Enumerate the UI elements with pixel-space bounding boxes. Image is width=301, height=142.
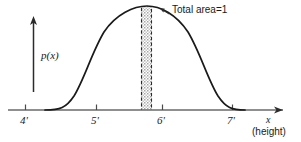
- x-tick-label-7ft: 7': [227, 115, 235, 126]
- x-tick-label-4ft: 4': [20, 115, 28, 126]
- x-tick-label-5ft: 5': [91, 115, 99, 126]
- shaded-area-strip: [141, 0, 152, 110]
- chart-canvas: [0, 0, 301, 142]
- total-area-annotation: Total area=1: [172, 5, 227, 15]
- x-tick-label-6ft: 6': [157, 115, 165, 126]
- x-axis-sublabel: (height): [252, 127, 286, 137]
- annotation-leader-arrowhead: [160, 8, 165, 12]
- probability-density-figure: p(x) Total area=1 4' 5' 6' 7' x (height): [0, 0, 301, 142]
- y-axis-label: p(x): [41, 50, 59, 61]
- x-axis-label: x: [266, 115, 270, 125]
